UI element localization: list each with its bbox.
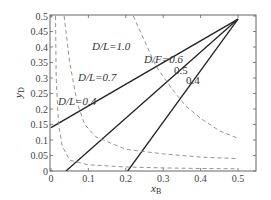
plot-border: [50, 15, 256, 171]
svg-text:yD: yD: [12, 87, 26, 99]
series-d-l-0-7: [64, 16, 238, 159]
annotation-dl-0-4: D/L=0.4: [57, 95, 97, 107]
y-tick-label: 0.05: [31, 150, 49, 161]
svg-text:xB: xB: [150, 182, 161, 196]
x-tick-label: 0: [49, 173, 54, 184]
y-tick-label: 0: [43, 166, 48, 177]
y-tick-label: 0.4: [36, 42, 49, 53]
y-tick-label: 0.25: [31, 88, 49, 99]
line-chart: 00.10.20.30.40.500.050.10.150.20.250.30.…: [0, 0, 271, 200]
y-tick-label: 0.5: [36, 11, 49, 22]
annotation-0-4: 0.4: [186, 74, 200, 86]
y-axis-label: yD: [12, 87, 26, 99]
annotation-dl-1-0: D/L=1.0: [91, 40, 131, 52]
y-tick-label: 0.35: [31, 57, 49, 68]
series-d-l-0-4: [56, 16, 239, 169]
annotation-dl-0-7: D/L=0.7: [77, 71, 117, 83]
plot-frame: [50, 15, 256, 171]
x-tick-label: 0.3: [157, 173, 170, 184]
x-tick-label: 0.5: [232, 173, 245, 184]
y-tick-label: 0.2: [36, 104, 49, 115]
y-tick-label: 0.3: [36, 73, 49, 84]
series-lines: [51, 16, 238, 171]
x-tick-label: 0.4: [194, 173, 207, 184]
x-tick-label: 0.1: [82, 173, 95, 184]
y-tick-label: 0.45: [31, 26, 49, 37]
y-tick-label: 0.1: [36, 135, 49, 146]
x-tick-label: 0.2: [120, 173, 133, 184]
series-d-f-0-4: [128, 19, 238, 171]
y-tick-label: 0.15: [31, 119, 49, 130]
x-axis-label: xB: [150, 182, 161, 196]
